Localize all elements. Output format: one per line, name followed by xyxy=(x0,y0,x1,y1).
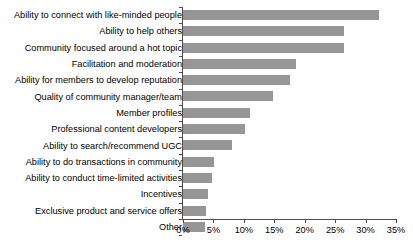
bar xyxy=(183,10,379,20)
y-axis-tick xyxy=(179,186,182,187)
bar-track xyxy=(183,7,396,23)
bar-category-label: Ability to search/recommend UGC xyxy=(2,141,182,151)
x-axis-tick xyxy=(305,220,306,223)
bar-track xyxy=(183,121,396,137)
bar-track xyxy=(183,170,396,186)
bar xyxy=(183,173,212,183)
y-axis-tick xyxy=(179,40,182,41)
x-axis-tick xyxy=(335,220,336,223)
x-axis-tick xyxy=(396,220,397,223)
y-axis-tick xyxy=(179,121,182,122)
bar xyxy=(183,124,245,134)
bar-row: Ability to conduct time-limited activiti… xyxy=(0,170,413,186)
x-axis-tick xyxy=(366,220,367,223)
bar-category-label: Ability to conduct time-limited activiti… xyxy=(2,173,182,183)
bar xyxy=(183,26,344,36)
y-axis-tick xyxy=(179,203,182,204)
bar-row: Ability to help others xyxy=(0,23,413,39)
bar-category-label: Member profiles xyxy=(2,108,182,118)
bar-row: Ability to search/recommend UGC xyxy=(0,137,413,153)
bar xyxy=(183,189,208,199)
bar xyxy=(183,59,296,69)
bar-track xyxy=(183,40,396,56)
bar-category-label: Other xyxy=(2,222,182,232)
y-axis-tick xyxy=(179,56,182,57)
bar-chart: Ability to connect with like-minded peop… xyxy=(0,0,413,247)
x-axis-tick xyxy=(183,220,184,223)
bar-category-label: Ability to help others xyxy=(2,26,182,36)
bar-row: Ability to connect with like-minded peop… xyxy=(0,7,413,23)
bar-track xyxy=(183,23,396,39)
y-axis-tick xyxy=(179,219,182,220)
bar-category-label: Quality of community manager/team xyxy=(2,92,182,102)
bar-row: Ability for members to develop reputatio… xyxy=(0,72,413,88)
bar-track xyxy=(183,154,396,170)
x-axis-tick-label: 35% xyxy=(376,225,413,236)
bar-row: Professional content developers xyxy=(0,121,413,137)
bar xyxy=(183,43,344,53)
bar xyxy=(183,140,232,150)
y-axis-tick xyxy=(179,105,182,106)
bar-row: Incentives xyxy=(0,186,413,202)
x-axis-tick xyxy=(213,220,214,223)
y-axis-line xyxy=(182,7,183,219)
bar xyxy=(183,91,273,101)
y-axis-tick xyxy=(179,7,182,8)
bar-category-label: Exclusive product and service offers xyxy=(2,206,182,216)
bar-row: Exclusive product and service offers xyxy=(0,203,413,219)
bar-track xyxy=(183,105,396,121)
plot-area: Ability to connect with like-minded peop… xyxy=(0,0,413,247)
bar-category-label: Community focused around a hot topic xyxy=(2,43,182,53)
y-axis-tick xyxy=(179,23,182,24)
bar-track xyxy=(183,88,396,104)
y-axis-tick xyxy=(179,170,182,171)
bar-track xyxy=(183,72,396,88)
bar-track xyxy=(183,203,396,219)
y-axis-tick xyxy=(179,137,182,138)
bar-row: Member profiles xyxy=(0,105,413,121)
bar-row: Ability to do transactions in community xyxy=(0,154,413,170)
y-axis-tick xyxy=(179,72,182,73)
bar-category-label: Incentives xyxy=(2,189,182,199)
bar-category-label: Professional content developers xyxy=(2,124,182,134)
bar-category-label: Facilitation and moderation xyxy=(2,59,182,69)
bar-row: Quality of community manager/team xyxy=(0,88,413,104)
x-axis-tick xyxy=(274,220,275,223)
bar-category-label: Ability to do transactions in community xyxy=(2,157,182,167)
bar xyxy=(183,157,214,167)
y-axis-tick xyxy=(179,154,182,155)
bar-category-label: Ability to connect with like-minded peop… xyxy=(2,10,182,20)
bar xyxy=(183,108,250,118)
bar-row: Facilitation and moderation xyxy=(0,56,413,72)
bar xyxy=(183,206,206,216)
bar-track xyxy=(183,186,396,202)
bar-rows: Ability to connect with like-minded peop… xyxy=(0,7,413,235)
bar-row: Community focused around a hot topic xyxy=(0,40,413,56)
y-axis-tick xyxy=(179,89,182,90)
bar-category-label: Ability for members to develop reputatio… xyxy=(2,75,182,85)
x-axis-tick xyxy=(244,220,245,223)
bar xyxy=(183,75,290,85)
bar-track xyxy=(183,137,396,153)
bar-track xyxy=(183,56,396,72)
